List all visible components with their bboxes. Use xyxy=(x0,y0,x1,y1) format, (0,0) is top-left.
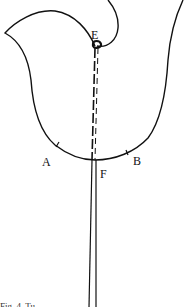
stem-line-left xyxy=(89,160,92,307)
point-label-f: F xyxy=(100,168,107,180)
grain-line-dashed-1 xyxy=(92,48,95,160)
left-petal-outline xyxy=(5,11,95,160)
tulip-pattern-diagram xyxy=(0,0,188,307)
point-label-a: A xyxy=(42,156,51,168)
point-label-b: B xyxy=(133,155,141,167)
point-label-e: E xyxy=(91,29,98,41)
grain-line-dashed-2 xyxy=(95,48,98,160)
center-petal-outline xyxy=(97,0,118,46)
figure-caption: Fig. 4. Tu... xyxy=(0,299,42,307)
right-petal-outline xyxy=(95,0,183,160)
